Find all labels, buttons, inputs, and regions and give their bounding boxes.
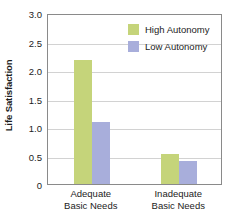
x-axis-tick-label: AdequateBasic Needs bbox=[64, 188, 117, 211]
y-axis-title-text: Life Satisfaction bbox=[4, 59, 15, 131]
bar bbox=[74, 60, 92, 184]
bar-group bbox=[48, 15, 136, 184]
y-axis-title: Life Satisfaction bbox=[0, 0, 18, 190]
bar bbox=[92, 122, 110, 184]
legend-item: Low Autonomy bbox=[128, 41, 209, 52]
x-axis-tick-label: InadequateBasic Needs bbox=[152, 188, 205, 211]
legend-label: Low Autonomy bbox=[145, 41, 207, 52]
legend-swatch-icon bbox=[128, 41, 139, 52]
x-axis-tick-label-line: Inadequate bbox=[152, 188, 205, 200]
y-axis-tick-label: 3.0 bbox=[29, 9, 42, 20]
y-axis-tick-label: 0.5 bbox=[29, 151, 42, 162]
bar-chart-figure: Life Satisfaction 00.51.01.52.02.53.0 Hi… bbox=[0, 0, 235, 222]
y-axis-tick-label: 2.5 bbox=[29, 37, 42, 48]
x-axis-tick-label-line: Basic Needs bbox=[152, 200, 205, 212]
legend-label: High Autonomy bbox=[145, 24, 209, 35]
y-axis-tick-label: 2.0 bbox=[29, 66, 42, 77]
y-axis-tick-labels: 00.51.01.52.02.53.0 bbox=[18, 14, 45, 185]
bar bbox=[179, 161, 197, 184]
legend-swatch-icon bbox=[128, 24, 139, 35]
x-axis-tick-label-line: Adequate bbox=[64, 188, 117, 200]
legend-item: High Autonomy bbox=[128, 24, 209, 35]
y-axis-tick-label: 1.5 bbox=[29, 94, 42, 105]
legend: High AutonomyLow Autonomy bbox=[128, 24, 209, 52]
x-axis-tick-label-line: Basic Needs bbox=[64, 200, 117, 212]
y-axis-tick-label: 1.0 bbox=[29, 123, 42, 134]
bar bbox=[161, 154, 179, 184]
x-axis-tick-labels: AdequateBasic NeedsInadequateBasic Needs bbox=[47, 188, 222, 220]
y-axis-tick-label: 0 bbox=[37, 180, 42, 191]
